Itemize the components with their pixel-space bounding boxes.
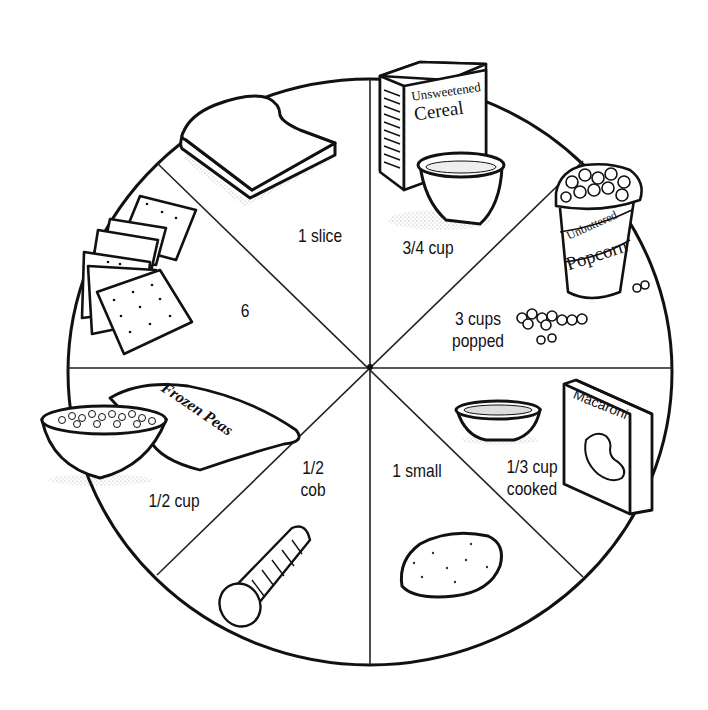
serving-label-cereal: 3/4 cup	[395, 237, 461, 259]
serving-label-corn-line2: cob	[293, 479, 334, 501]
serving-label-crackers: 6	[235, 300, 255, 322]
plate-center-dot	[367, 364, 373, 370]
serving-label-popcorn-line2: popped	[445, 330, 511, 352]
serving-label-macaroni-line2: cooked	[499, 478, 565, 500]
bread-slice-icon	[181, 96, 335, 207]
serving-label-corn: 1/2 cob	[293, 457, 334, 501]
peas-bowl-icon	[42, 406, 166, 486]
serving-label-popcorn: 3 cups popped	[445, 308, 511, 352]
serving-label-potato: 1 small	[380, 460, 454, 482]
crackers-icon	[82, 196, 196, 354]
macaroni-bowl-icon	[456, 401, 540, 445]
plate-svg	[0, 0, 708, 710]
serving-label-macaroni: 1/3 cup cooked	[499, 456, 565, 500]
serving-size-plate-diagram: Unsweetened Cereal Unbuttered Popcorn Ma…	[0, 0, 708, 710]
serving-label-macaroni-line1: 1/3 cup	[499, 456, 565, 478]
serving-label-corn-line1: 1/2	[293, 457, 334, 479]
serving-label-bread: 1 slice	[287, 225, 353, 247]
potato-icon	[401, 533, 501, 597]
serving-label-peas: 1/2 cup	[141, 490, 207, 512]
serving-label-popcorn-line1: 3 cups	[445, 308, 511, 330]
